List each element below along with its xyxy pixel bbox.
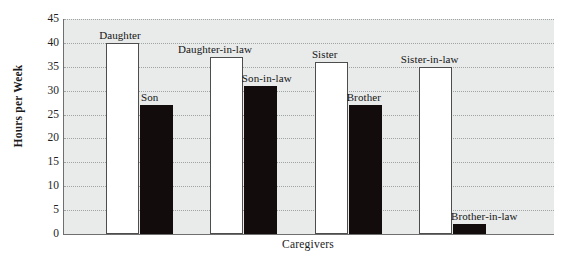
bar-son — [140, 105, 173, 234]
bar-label-daughter: Daughter — [99, 30, 141, 41]
plot-area: DaughterSonDaughter-in-lawSon-in-lawSist… — [63, 19, 554, 235]
y-axis-title: Hours per Week — [12, 26, 24, 186]
bar-label-brother: Brother — [347, 92, 381, 103]
bar-label-brother-in-law: Brother-in-law — [451, 211, 518, 222]
y-axis-tick-label: 25 — [33, 109, 59, 121]
y-axis-tick-labels: 454035302520151050 — [33, 19, 59, 234]
y-axis-tick-label: 20 — [33, 133, 59, 145]
bar-brother-in-law — [453, 224, 486, 234]
bar-label-son: Son — [141, 92, 158, 103]
y-axis-tick-label: 30 — [33, 85, 59, 97]
bar-label-sister-in-law: Sister-in-law — [401, 54, 459, 65]
y-axis-tick-label: 5 — [33, 204, 59, 216]
bar-son-in-law — [244, 86, 277, 234]
x-axis-title: Caregivers — [63, 238, 553, 250]
y-axis-tick-label: 35 — [33, 61, 59, 73]
bar-label-sister: Sister — [312, 49, 338, 60]
plot-inner: DaughterSonDaughter-in-lawSon-in-lawSist… — [64, 19, 554, 234]
bar-daughter — [106, 43, 139, 234]
bar-sister — [315, 62, 348, 234]
y-axis-tick-label: 10 — [33, 180, 59, 192]
y-axis-tick-label: 0 — [33, 228, 59, 240]
bar-label-son-in-law: Son-in-law — [242, 73, 292, 84]
bar-label-daughter-in-law: Daughter-in-law — [178, 44, 252, 55]
gridline — [64, 19, 554, 20]
bar-sister-in-law — [419, 67, 452, 234]
bar-brother — [349, 105, 382, 234]
bar-chart: Hours per Week 454035302520151050 Daught… — [0, 0, 569, 263]
y-axis-tick-label: 45 — [33, 13, 59, 25]
y-axis-tick-label: 15 — [33, 157, 59, 169]
y-axis-tick-label: 40 — [33, 37, 59, 49]
bar-daughter-in-law — [210, 57, 243, 234]
